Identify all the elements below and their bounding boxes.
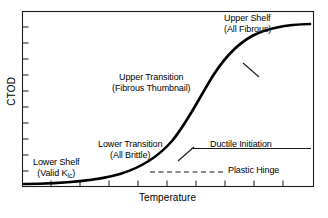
annotation-lower-shelf-kic-post: ) [72, 168, 75, 178]
annotation-lower-shelf-kic-subscript: Ic [67, 172, 72, 179]
annotation-upper-shelf-line2: (All Fibrous) [224, 24, 271, 35]
annotation-upper-transition-line2: (Fibrous Thumbnail) [112, 83, 190, 94]
annotation-upper-shelf-line1: Upper Shelf [224, 13, 270, 23]
annotation-upper-transition-line1: Upper Transition [119, 72, 183, 82]
annotation-ductile-initiation: Ductile Initiation [210, 139, 272, 150]
annotation-upper-shelf: Upper Shelf (All Fibrous) [224, 13, 271, 34]
annotation-lower-transition: Lower Transition (All Brittle) [98, 139, 162, 160]
annotation-plastic-hinge: Plastic Hinge [228, 165, 279, 176]
annotation-lower-shelf-kic-pre: (Valid K [37, 168, 67, 178]
x-axis-label: Temperature [22, 193, 313, 204]
annotation-lower-shelf-line2: (Valid KIc) [33, 168, 79, 180]
annotation-lower-transition-line2: (All Brittle) [98, 150, 162, 161]
y-axis-label: CTOD [7, 67, 18, 115]
plot-canvas [0, 0, 328, 218]
annotation-lower-shelf-line1: Lower Shelf [33, 157, 79, 167]
ctod-transition-chart: CTOD Temperature Upper Shelf (All Fibrou… [0, 0, 328, 218]
annotation-lower-shelf: Lower Shelf (Valid KIc) [33, 157, 79, 179]
annotation-lower-transition-line1: Lower Transition [98, 139, 162, 149]
annotation-upper-transition: Upper Transition (Fibrous Thumbnail) [112, 72, 190, 93]
